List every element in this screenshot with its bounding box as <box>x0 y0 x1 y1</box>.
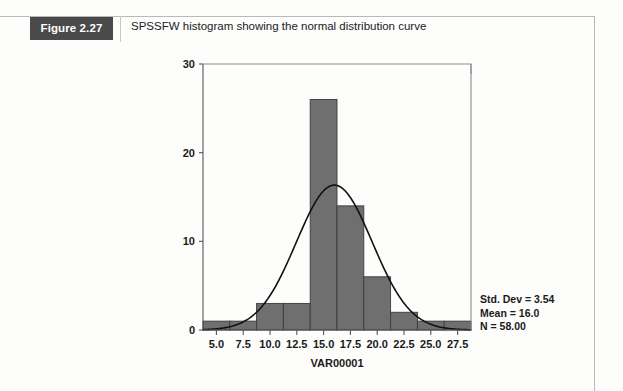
y-tick-label: 0 <box>189 324 195 336</box>
x-tick-label: 10.0 <box>259 338 280 350</box>
statistics-annotation: Std. Dev = 3.54 Mean = 16.0 N = 58.00 <box>480 293 554 334</box>
n-text: N = 58.00 <box>480 320 554 334</box>
histogram-bar <box>310 99 337 330</box>
y-tick-label: 30 <box>183 58 195 70</box>
caption-divider <box>120 16 121 42</box>
figure-caption-row: Figure 2.27 SPSSFW histogram showing the… <box>0 17 595 41</box>
x-tick-label: 27.5 <box>447 338 468 350</box>
y-tick-label: 10 <box>183 235 195 247</box>
histogram-bar <box>283 303 310 330</box>
figure-caption-text: SPSSFW histogram showing the normal dist… <box>131 20 426 32</box>
x-tick-label: 7.5 <box>236 338 251 350</box>
histogram-bar <box>391 312 418 330</box>
x-tick-label: 22.5 <box>393 338 414 350</box>
x-tick-label: 25.0 <box>420 338 441 350</box>
x-tick-label: 20.0 <box>366 338 387 350</box>
histogram-bar <box>337 206 364 330</box>
x-axis-title: VAR00001 <box>311 357 364 369</box>
x-tick-label: 12.5 <box>286 338 307 350</box>
std-dev-text: Std. Dev = 3.54 <box>480 293 554 307</box>
x-tick-label: 15.0 <box>313 338 334 350</box>
y-tick-label: 20 <box>183 147 195 159</box>
x-tick-label: 17.5 <box>340 338 361 350</box>
figure-number-badge: Figure 2.27 <box>30 17 113 40</box>
histogram-bar <box>364 277 391 330</box>
histogram-bars <box>203 99 471 330</box>
histogram-bar <box>417 321 444 330</box>
x-tick-label: 5.0 <box>209 338 224 350</box>
mean-text: Mean = 16.0 <box>480 307 554 321</box>
